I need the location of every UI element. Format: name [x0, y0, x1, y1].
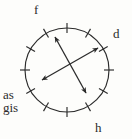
- tick-marks: [20, 23, 114, 117]
- tick-mark: [26, 47, 35, 52]
- diagram-canvas: [0, 0, 132, 139]
- outer-circle: [25, 28, 109, 112]
- label-d: d: [113, 27, 120, 40]
- circular-diagram-figure: f d h as gis: [0, 0, 132, 139]
- arrow-sw-ne: [42, 48, 98, 80]
- label-h: h: [95, 121, 102, 134]
- label-f: f: [34, 3, 38, 16]
- arrow-nw-se: [55, 37, 86, 93]
- tick-mark: [26, 89, 35, 94]
- label-gis: gis: [3, 101, 18, 114]
- tick-mark: [99, 89, 108, 94]
- tick-mark: [99, 47, 108, 52]
